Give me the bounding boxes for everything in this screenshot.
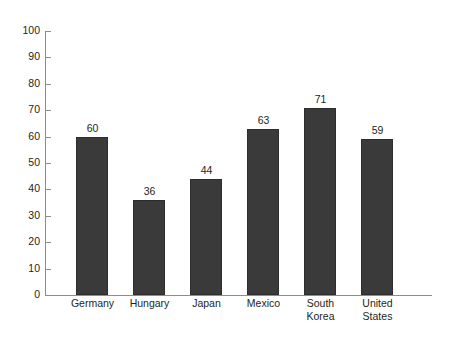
bar-value-label: 71 (292, 93, 349, 105)
bar-group[interactable]: 63Mexico (235, 0, 292, 295)
x-axis-category-label-line: Japan (174, 297, 239, 310)
x-axis-category-label-line: Mexico (231, 297, 296, 310)
y-axis-tick-mark (46, 31, 51, 32)
y-axis-tick-mark (46, 84, 51, 85)
bar-group[interactable]: 44Japan (178, 0, 235, 295)
bar-value-label: 60 (64, 122, 121, 134)
bar-column: 59 (349, 31, 406, 295)
x-axis-category-label-line: Hungary (117, 297, 182, 310)
x-axis-category-label: SouthKorea (288, 297, 353, 323)
x-axis-line (45, 295, 432, 296)
y-axis-tick-mark (46, 216, 51, 217)
y-axis-tick-mark (46, 295, 51, 296)
bar-chart: 0102030405060708090100 60Germany36Hungar… (0, 0, 457, 339)
x-axis-category-label: Japan (174, 297, 239, 310)
y-axis-tick-label: 90 (0, 50, 40, 63)
bar[interactable] (76, 137, 108, 295)
bar[interactable] (361, 139, 393, 295)
bar-column: 63 (235, 31, 292, 295)
y-axis-tick-mark (46, 57, 51, 58)
bar-group[interactable]: 71SouthKorea (292, 0, 349, 295)
y-axis-tick-label: 10 (0, 262, 40, 275)
x-axis-category-label: Germany (60, 297, 125, 310)
x-axis-category-label-line: South (288, 297, 353, 310)
y-axis-tick-label: 40 (0, 182, 40, 195)
bar-value-label: 59 (349, 124, 406, 136)
bar[interactable] (190, 179, 222, 295)
y-axis-tick-mark (46, 269, 51, 270)
x-axis-category-label-line: Germany (60, 297, 125, 310)
y-axis-tick-mark (46, 137, 51, 138)
x-axis-category-label-line: Korea (288, 310, 353, 323)
y-axis-tick-mark (46, 242, 51, 243)
bar[interactable] (133, 200, 165, 295)
bar-column: 44 (178, 31, 235, 295)
bar[interactable] (304, 108, 336, 295)
bar-column: 60 (64, 31, 121, 295)
bar-group[interactable]: 36Hungary (121, 0, 178, 295)
x-axis-category-label: Hungary (117, 297, 182, 310)
bar-column: 71 (292, 31, 349, 295)
y-axis-tick-label: 80 (0, 77, 40, 90)
bar-value-label: 36 (121, 185, 178, 197)
bar-column: 36 (121, 31, 178, 295)
y-axis-tick-label: 70 (0, 103, 40, 116)
x-axis-category-label: Mexico (231, 297, 296, 310)
y-axis-tick-label: 20 (0, 235, 40, 248)
y-axis-tick-label: 50 (0, 156, 40, 169)
y-axis-tick-label: 0 (0, 288, 40, 301)
y-axis-tick-label: 60 (0, 130, 40, 143)
y-axis-tick-mark (46, 110, 51, 111)
bar-group[interactable]: 59UnitedStates (349, 0, 406, 295)
y-axis-tick-label: 100 (0, 24, 40, 37)
bar[interactable] (247, 129, 279, 295)
bar-value-label: 63 (235, 114, 292, 126)
y-axis-tick-mark (46, 163, 51, 164)
x-axis-category-label: UnitedStates (345, 297, 410, 323)
bar-group[interactable]: 60Germany (64, 0, 121, 295)
bar-value-label: 44 (178, 164, 235, 176)
x-axis-category-label-line: States (345, 310, 410, 323)
x-axis-category-label-line: United (345, 297, 410, 310)
y-axis-tick-label: 30 (0, 209, 40, 222)
y-axis-tick-mark (46, 189, 51, 190)
